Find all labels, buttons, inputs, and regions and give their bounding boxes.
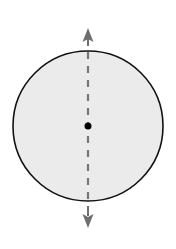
center-dot (85, 123, 92, 130)
arrow-down-icon (83, 206, 94, 228)
arrow-up-icon (83, 28, 94, 46)
circle-axis-diagram (0, 0, 176, 249)
diagram-canvas (0, 0, 176, 249)
